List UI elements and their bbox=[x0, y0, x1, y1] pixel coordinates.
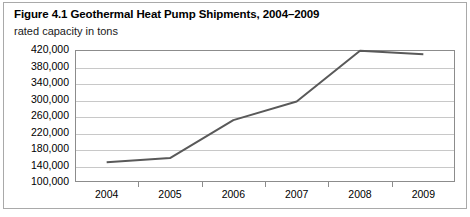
y-axis-tick-label: 420,000 bbox=[9, 43, 69, 55]
x-axis-tick-label: 2008 bbox=[325, 188, 395, 200]
y-axis-tick-label: 260,000 bbox=[9, 109, 69, 121]
x-axis-tick-label: 2009 bbox=[388, 188, 458, 200]
x-axis-tick-mark bbox=[328, 182, 329, 187]
y-axis-tick-label: 100,000 bbox=[9, 175, 69, 187]
y-axis-tick-label: 180,000 bbox=[9, 142, 69, 154]
gridline bbox=[76, 84, 454, 85]
figure-title: Figure 4.1 Geothermal Heat Pump Shipment… bbox=[14, 8, 319, 20]
y-axis-tick-label: 380,000 bbox=[9, 60, 69, 72]
gridline bbox=[76, 117, 454, 118]
x-axis-tick-mark bbox=[138, 182, 139, 187]
figure-subtitle: rated capacity in tons bbox=[14, 25, 118, 37]
gridline bbox=[76, 68, 454, 69]
y-axis-tick-label: 340,000 bbox=[9, 76, 69, 88]
y-axis-tick-label: 220,000 bbox=[9, 126, 69, 138]
gridline bbox=[76, 150, 454, 151]
gridline bbox=[76, 167, 454, 168]
gridline bbox=[76, 134, 454, 135]
x-axis-tick-mark bbox=[265, 182, 266, 187]
y-axis-tick-label: 140,000 bbox=[9, 159, 69, 171]
y-axis-tick-label: 300,000 bbox=[9, 93, 69, 105]
x-axis-tick-mark bbox=[202, 182, 203, 187]
gridline bbox=[76, 101, 454, 102]
x-axis-tick-label: 2007 bbox=[262, 188, 332, 200]
figure-container: Figure 4.1 Geothermal Heat Pump Shipment… bbox=[0, 0, 470, 217]
x-axis-tick-label: 2004 bbox=[72, 188, 142, 200]
x-axis-tick-mark bbox=[392, 182, 393, 187]
x-axis-tick-label: 2006 bbox=[198, 188, 268, 200]
x-axis-tick-label: 2005 bbox=[135, 188, 205, 200]
plot-area bbox=[75, 50, 455, 182]
